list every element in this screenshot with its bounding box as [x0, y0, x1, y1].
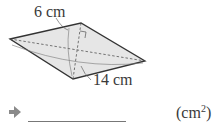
- rhombus-figure: 6 cm 14 cm: [0, 0, 222, 95]
- long-diagonal-label: 14 cm: [93, 72, 133, 88]
- short-diagonal-label: 6 cm: [34, 4, 66, 20]
- arrow-right-icon: [9, 106, 21, 118]
- unit-label: (cm2): [176, 103, 211, 122]
- answer-row: (cm2): [0, 100, 222, 126]
- unit-close: ): [206, 104, 211, 121]
- answer-blank[interactable]: [28, 121, 126, 122]
- unit-base: (cm: [176, 104, 201, 121]
